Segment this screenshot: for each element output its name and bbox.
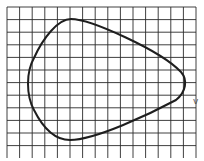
tick-mark: ⅴ xyxy=(193,96,199,106)
grid-figure: ⅴ xyxy=(0,0,204,161)
background xyxy=(0,0,204,161)
grid-curve-diagram: ⅴ xyxy=(0,0,204,161)
